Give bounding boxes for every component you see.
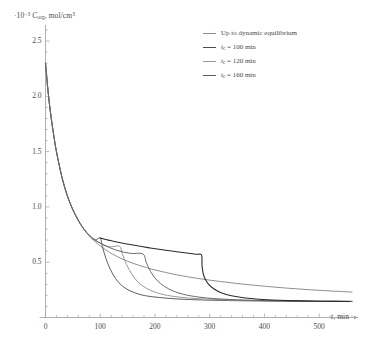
legend-item-label: tc = 120 min [221, 56, 256, 67]
chart-figure: ·10−3 Corg, mol/cm3 t, min 0100200300400… [0, 0, 365, 348]
legend-item: Up to dynamic equilibrium [203, 26, 363, 40]
legend-item: tc = 160 min [203, 68, 363, 82]
chart-series-line-3 [46, 63, 353, 301]
legend-swatch-icon [203, 61, 216, 62]
x-tick-label: 0 [31, 322, 61, 331]
chart-series-line-1 [46, 63, 353, 301]
x-tick-label: 100 [85, 322, 115, 331]
y-tick-label: 2.5 [20, 36, 42, 45]
legend-swatch-icon [203, 75, 216, 76]
x-axis-arrow [354, 316, 358, 320]
legend-item-label: tc = 100 min [221, 42, 256, 53]
legend-swatch-icon [203, 47, 216, 48]
x-tick-label: 300 [195, 322, 225, 331]
chart-series-line-4 [100, 238, 350, 301]
y-tick-label: 2.0 [20, 91, 42, 100]
legend-item-label: Up to dynamic equilibrium [221, 28, 297, 38]
chart-series-line-0 [46, 63, 353, 292]
legend-item: tc = 100 min [203, 40, 363, 54]
y-tick-label: 1.0 [20, 202, 42, 211]
legend-item-label: tc = 160 min [221, 70, 256, 81]
x-axis-title: t, min [331, 312, 349, 321]
legend-item: tc = 120 min [203, 54, 363, 68]
y-tick-label: 1.5 [20, 147, 42, 156]
x-tick-label: 500 [304, 322, 334, 331]
x-tick-label: 400 [249, 322, 279, 331]
legend-swatch-icon [203, 33, 216, 34]
x-tick-label: 200 [140, 322, 170, 331]
y-tick-label: 0.5 [20, 257, 42, 266]
y-axis-title: ·10−3 Corg, mol/cm3 [14, 11, 75, 20]
chart-series-line-2 [46, 63, 353, 301]
chart-legend: Up to dynamic equilibriumtc = 100 mintc … [203, 26, 363, 82]
